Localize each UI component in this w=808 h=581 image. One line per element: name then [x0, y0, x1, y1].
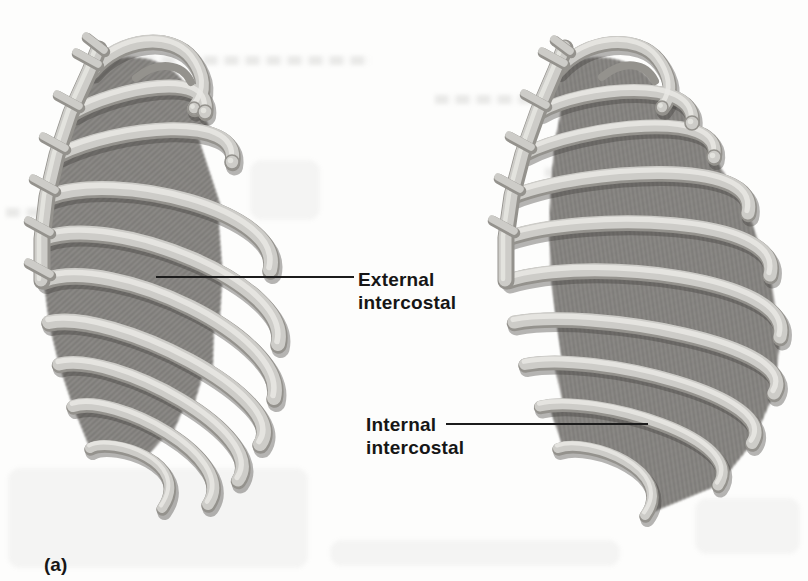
external-intercostal-leader-line: [156, 276, 354, 278]
ribcage-internal-illustration: [470, 35, 805, 555]
label-line: Internal: [366, 413, 464, 436]
panel-letter: (a): [44, 554, 67, 576]
label-line: intercostal: [358, 291, 456, 314]
internal-intercostal-label: Internal intercostal: [366, 413, 464, 459]
label-line: External: [358, 268, 456, 291]
external-intercostal-label: External intercostal: [358, 268, 456, 314]
internal-intercostal-leader-line: [446, 423, 648, 425]
figure-panel: External intercostal Internal intercosta…: [0, 0, 808, 581]
label-line: intercostal: [366, 436, 464, 459]
ribcage-external-illustration: [20, 30, 370, 545]
